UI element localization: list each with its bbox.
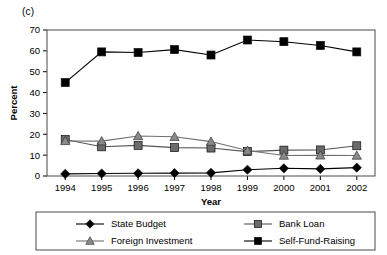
x-tick-label: 1998 — [200, 182, 221, 193]
chart-legend: State BudgetBank LoanForeign InvestmentS… — [36, 212, 375, 250]
x-tick-label: 1999 — [237, 182, 258, 193]
x-axis-title: Year — [201, 196, 221, 207]
x-tick-label: 1994 — [55, 182, 76, 193]
legend-label: Foreign Investment — [111, 235, 193, 246]
data-point-marker — [254, 220, 261, 227]
series-self-fund-raising — [61, 36, 361, 87]
data-point-marker — [171, 46, 179, 54]
data-point-marker — [98, 48, 106, 56]
data-point-marker — [280, 38, 288, 46]
y-tick-label: 10 — [29, 150, 40, 161]
x-tick-label: 2001 — [310, 182, 331, 193]
data-point-marker — [97, 169, 106, 178]
data-point-marker — [243, 36, 251, 44]
data-point-marker — [171, 144, 179, 152]
line-chart: 010203040506070 199419951996199719981999… — [0, 0, 387, 255]
legend-label: Bank Loan — [279, 218, 324, 229]
y-tick-label: 40 — [29, 87, 40, 98]
data-point-marker — [61, 169, 70, 178]
data-point-marker — [279, 164, 288, 173]
x-tick-label: 1995 — [91, 182, 112, 193]
data-point-marker — [134, 141, 142, 149]
data-point-marker — [316, 164, 325, 173]
data-point-marker — [207, 51, 215, 59]
y-axis-title: Percent — [8, 85, 19, 121]
legend-item-self-fund-raising[interactable]: Self-Fund-Raising — [244, 235, 355, 246]
y-tick-label: 0 — [35, 170, 40, 181]
legend-item-bank-loan[interactable]: Bank Loan — [244, 218, 324, 229]
y-axis-ticks: 010203040506070 — [29, 24, 47, 181]
legend-label: Self-Fund-Raising — [279, 235, 355, 246]
series-line — [65, 40, 357, 83]
data-point-marker — [353, 142, 361, 150]
x-tick-label: 1997 — [164, 182, 185, 193]
y-tick-label: 70 — [29, 24, 40, 35]
chart-figure: (c) 010203040506070 19941995199619971998… — [0, 0, 387, 255]
data-point-marker — [134, 169, 143, 178]
y-tick-label: 50 — [29, 66, 40, 77]
data-point-marker — [134, 49, 142, 57]
y-tick-label: 60 — [29, 45, 40, 56]
x-tick-label: 1996 — [128, 182, 149, 193]
data-point-marker — [353, 48, 361, 56]
legend-item-state-budget[interactable]: State Budget — [76, 218, 166, 229]
y-tick-label: 20 — [29, 129, 40, 140]
data-point-marker — [254, 237, 261, 244]
x-axis-ticks: 199419951996199719981999200020012002 — [55, 176, 368, 193]
legend-item-foreign-investment[interactable]: Foreign Investment — [76, 235, 193, 246]
y-tick-label: 30 — [29, 108, 40, 119]
x-tick-label: 2000 — [273, 182, 294, 193]
data-point-marker — [316, 41, 324, 49]
x-tick-label: 2002 — [346, 182, 367, 193]
series-layer — [61, 36, 362, 179]
legend-label: State Budget — [111, 218, 166, 229]
data-point-marker — [243, 165, 252, 174]
data-point-marker — [352, 163, 361, 172]
data-point-marker — [86, 220, 94, 228]
data-point-marker — [61, 79, 69, 87]
